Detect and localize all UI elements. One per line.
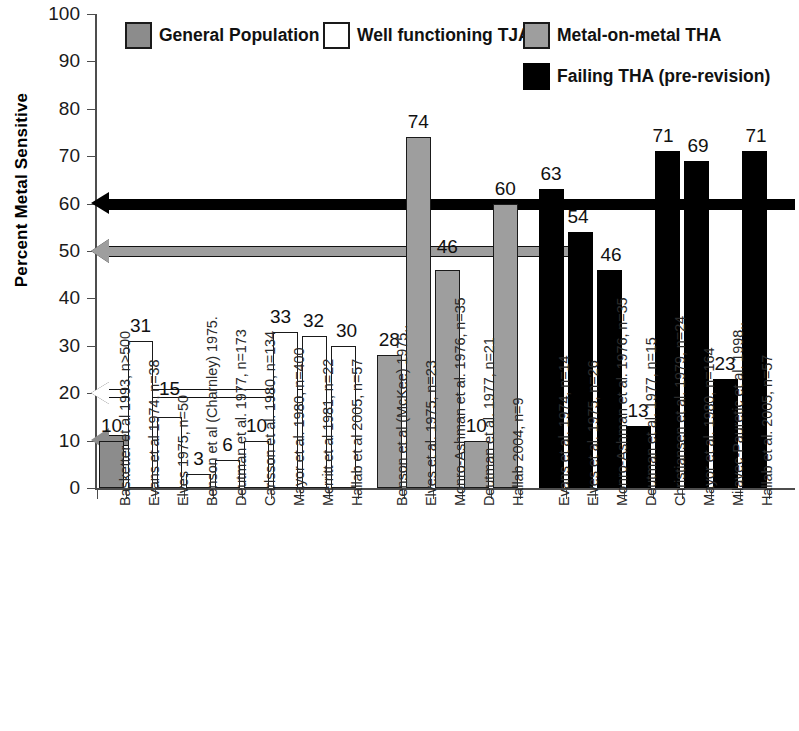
x-category-label: Hallab 2004, n=9 bbox=[511, 398, 526, 506]
x-category-label: Elves 1975, n=50 bbox=[176, 395, 191, 506]
x-category-label: Deutman et al. 1977, n=15 bbox=[644, 337, 659, 506]
x-category-label: Monro-Ashman et al. 1976, n=35 bbox=[453, 297, 468, 506]
x-category-label: Elves et al. 1975, n=23 bbox=[424, 360, 439, 506]
x-category-label: Deutman et al. 1977, n=21 bbox=[482, 337, 497, 506]
chart-root: Percent Metal Sensitive 1009080706050403… bbox=[0, 0, 799, 731]
x-category-label: Benson et al (Charnley) 1975. bbox=[205, 316, 220, 506]
x-category-label: Evans et al 1974, n=38 bbox=[147, 359, 162, 506]
x-category-label: Basketter et al 1993, n>500 bbox=[118, 331, 133, 506]
x-category-label: Merritt et al 1981, n=22 bbox=[321, 359, 336, 506]
x-category-label: Hallab et al. 2005, n=57 bbox=[760, 355, 775, 506]
x-category-label: Mayor et al. 1980, n=400 bbox=[292, 348, 307, 506]
x-axis-category-labels: Basketter et al 1993, n>500Evans et al 1… bbox=[0, 0, 799, 731]
x-category-label: Carlsson et al. 1980, n=134 bbox=[263, 331, 278, 506]
x-category-label: Benson et al (McKee) 1975.. bbox=[395, 325, 410, 506]
x-category-label: Monro-Ashman et al. 1976, n=35 bbox=[615, 297, 630, 506]
x-category-label: Elves et al. 1975, n=26 bbox=[586, 360, 601, 506]
x-category-label: Christiansen et al. 1979, n=24 bbox=[673, 316, 688, 506]
x-category-label: Milavec-Pauretic et al. 1998.. bbox=[731, 322, 746, 506]
x-category-label: Evans et al. 1974, n=14 bbox=[557, 356, 572, 506]
x-category-label: Mayor et al. 1980, n=164 bbox=[702, 348, 717, 506]
x-category-label: Hallab et al 2005, n=57 bbox=[350, 359, 365, 506]
x-category-label: Deutman et al. 1977, n=173 bbox=[234, 329, 249, 506]
